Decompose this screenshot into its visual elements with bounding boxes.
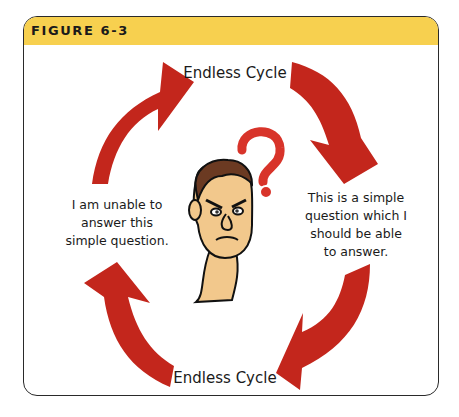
- arrow-top-right-icon: [290, 62, 378, 184]
- bottom-cycle-label: Endless Cycle: [170, 369, 280, 387]
- left-statement: I am unable to answer this simple questi…: [62, 196, 172, 250]
- left-statement-line: I am unable to: [62, 196, 172, 214]
- right-statement-line: This is a simple: [292, 189, 420, 207]
- left-statement-line: simple question.: [62, 232, 172, 250]
- puzzled-man-illustration: [189, 160, 252, 302]
- arrow-bottom-left-icon: [84, 262, 174, 387]
- left-statement-line: answer this: [62, 214, 172, 232]
- right-statement: This is a simple question which I should…: [292, 189, 420, 261]
- top-cycle-label: Endless Cycle: [180, 64, 290, 82]
- right-statement-line: to answer.: [292, 243, 420, 261]
- arrow-top-left-icon: [92, 62, 194, 184]
- right-statement-line: should be able: [292, 225, 420, 243]
- arrow-bottom-right-icon: [276, 264, 370, 390]
- right-statement-line: question which I: [292, 207, 420, 225]
